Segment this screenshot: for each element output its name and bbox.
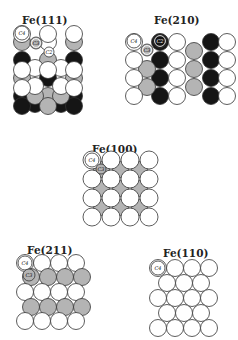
adsorption-site-c3: C3 <box>30 37 42 49</box>
panel-title-fe110: Fe(110) <box>163 247 208 259</box>
atom-white <box>121 151 139 169</box>
site-label: C4 <box>130 38 137 44</box>
atom-white <box>201 290 218 307</box>
atom-white <box>219 52 236 69</box>
atom-white <box>184 320 201 337</box>
atom-white <box>193 305 210 322</box>
atom-white <box>169 34 186 51</box>
atom-black <box>203 52 220 69</box>
atom-white <box>66 26 83 43</box>
atom-white <box>140 189 158 207</box>
atom-gray <box>40 269 57 286</box>
atom-white <box>121 170 139 188</box>
atom-white <box>66 80 83 97</box>
site-label: C4 <box>154 265 161 271</box>
lattice-fe100: C4C3 <box>83 151 163 231</box>
adsorption-site-c4: C4 <box>18 256 32 270</box>
atom-white <box>184 290 201 307</box>
atom-white <box>150 290 167 307</box>
atom-white <box>68 313 85 330</box>
atom-gray <box>186 43 203 60</box>
adsorption-site-c2: C2 <box>153 34 167 48</box>
panel-title-fe210: Fe(210) <box>154 14 199 26</box>
atom-white <box>102 208 120 226</box>
atom-white <box>150 320 167 337</box>
atom-white <box>184 260 201 277</box>
adsorption-site-c4: C4 <box>127 34 141 48</box>
atom-white <box>140 170 158 188</box>
atom-gray <box>40 98 57 115</box>
atom-white <box>121 208 139 226</box>
lattice-fe110: C4 <box>150 260 230 340</box>
atom-white <box>121 189 139 207</box>
site-label: C2 <box>156 38 163 44</box>
atom-white <box>167 290 184 307</box>
atom-white <box>83 189 101 207</box>
atom-white <box>176 305 193 322</box>
atom-white <box>167 320 184 337</box>
atom-white <box>219 88 236 105</box>
atom-white <box>40 62 57 79</box>
atom-white <box>169 52 186 69</box>
atom-white <box>169 88 186 105</box>
atom-black <box>203 88 220 105</box>
atom-white <box>140 151 158 169</box>
atom-white <box>159 305 176 322</box>
atom-white <box>66 62 83 79</box>
atom-white <box>34 313 51 330</box>
site-label: C4 <box>21 260 28 266</box>
site-label: C3 <box>25 272 32 278</box>
atom-white <box>51 313 68 330</box>
lattice-fe211: C4C3 <box>17 255 97 335</box>
atom-white <box>17 313 34 330</box>
site-label: C3 <box>97 166 104 172</box>
lattice-fe210: C4C3C2 <box>126 33 238 113</box>
atom-white <box>83 208 101 226</box>
atom-white <box>34 284 51 301</box>
atom-white <box>126 52 143 69</box>
atom-white <box>51 284 68 301</box>
adsorption-site-c3: C3 <box>23 269 35 281</box>
atom-white <box>40 26 57 43</box>
atom-white <box>14 62 31 79</box>
atom-gray <box>186 61 203 78</box>
atom-black <box>203 34 220 51</box>
atom-black <box>203 70 220 87</box>
adsorption-site-c3: C3 <box>96 164 106 174</box>
atom-white <box>126 70 143 87</box>
site-label: C4 <box>88 157 95 163</box>
atom-white <box>126 88 143 105</box>
site-label: C4 <box>18 30 25 36</box>
lattice-fe111: C4C3C2 <box>14 33 94 123</box>
atom-gray <box>74 269 91 286</box>
atom-white <box>68 284 85 301</box>
atom-white <box>219 70 236 87</box>
atom-white <box>159 275 176 292</box>
atom-gray <box>57 269 74 286</box>
site-label: C3 <box>143 47 150 53</box>
atom-white <box>14 80 31 97</box>
adsorption-site-c2: C2 <box>44 47 54 57</box>
atom-white <box>17 284 34 301</box>
atom-white <box>167 260 184 277</box>
site-label: C2 <box>45 49 52 55</box>
atom-white <box>201 320 218 337</box>
atom-white <box>169 70 186 87</box>
panel-title-fe111: Fe(111) <box>22 14 67 26</box>
atom-white <box>102 189 120 207</box>
atom-white <box>176 275 193 292</box>
atom-white <box>140 208 158 226</box>
adsorption-site-c3: C3 <box>141 44 153 56</box>
adsorption-site-c4: C4 <box>151 261 165 275</box>
atom-gray <box>186 79 203 96</box>
atom-white <box>193 275 210 292</box>
atom-white <box>201 260 218 277</box>
adsorption-site-c4: C4 <box>15 26 29 40</box>
site-label: C3 <box>32 40 39 46</box>
atom-white <box>219 34 236 51</box>
